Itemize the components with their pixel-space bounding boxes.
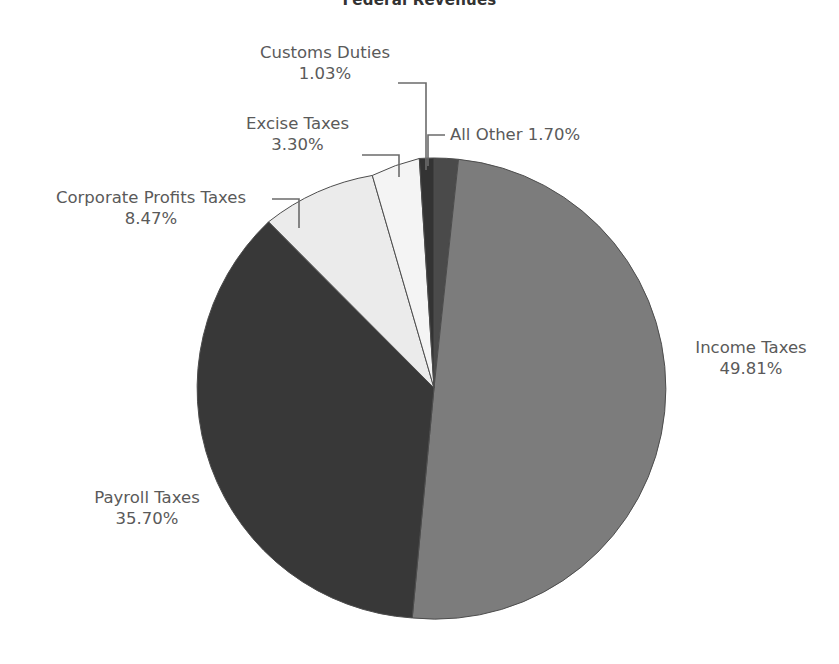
pie-label-all-other-value: 1.70%	[523, 125, 581, 144]
pie-label-payroll-taxes: Payroll Taxes 35.70%	[72, 487, 222, 529]
pie-label-customs-duties-name: Customs Duties	[250, 42, 400, 63]
pie-label-payroll-taxes-value: 35.70%	[72, 508, 222, 529]
pie-label-excise-taxes-value: 3.30%	[235, 134, 360, 155]
pie-chart-graphic	[0, 0, 839, 664]
pie-label-customs-duties-value: 1.03%	[250, 63, 400, 84]
pie-label-corporate-profits-taxes-value: 8.47%	[32, 208, 270, 229]
pie-label-income-taxes-name: Income Taxes	[676, 337, 826, 358]
pie-label-all-other: All Other 1.70%	[450, 124, 580, 145]
pie-label-income-taxes-value: 49.81%	[676, 358, 826, 379]
pie-label-corporate-profits-taxes: Corporate Profits Taxes 8.47%	[32, 187, 270, 229]
pie-label-corporate-profits-taxes-name: Corporate Profits Taxes	[32, 187, 270, 208]
pie-label-payroll-taxes-name: Payroll Taxes	[72, 487, 222, 508]
pie-chart-figure: Federal Revenues Customs Duties 1.03% Ex…	[0, 0, 839, 664]
pie-label-excise-taxes: Excise Taxes 3.30%	[235, 113, 360, 155]
pie-label-income-taxes: Income Taxes 49.81%	[676, 337, 826, 379]
pie-label-all-other-name: All Other	[450, 125, 523, 144]
leader-line-customs-duties	[398, 83, 426, 170]
pie-label-excise-taxes-name: Excise Taxes	[235, 113, 360, 134]
pie-label-customs-duties: Customs Duties 1.03%	[250, 42, 400, 84]
